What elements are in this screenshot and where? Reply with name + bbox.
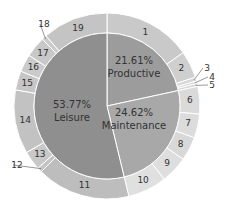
outer-label-17: 17: [37, 48, 48, 58]
outer-label-10: 10: [137, 175, 149, 185]
outer-label-16: 16: [28, 62, 40, 72]
outer-label-7: 7: [185, 118, 191, 128]
outer-label-18: 18: [38, 19, 50, 29]
outer-label-1: 1: [142, 27, 148, 37]
outer-label-12: 12: [11, 160, 22, 170]
inner-percent-productive: 21.61%: [115, 55, 153, 66]
leader-line-4: [195, 77, 208, 83]
outer-label-8: 8: [178, 139, 184, 149]
outer-label-9: 9: [164, 158, 170, 168]
outer-label-13: 13: [34, 149, 45, 159]
leader-line-3: [194, 68, 203, 80]
inner-label-leisure: Leisure: [54, 112, 90, 123]
outer-label-5: 5: [209, 80, 215, 90]
inner-label-maintenance: Maintenance: [102, 120, 166, 131]
outer-label-2: 2: [178, 63, 184, 73]
outer-label-11: 11: [79, 180, 90, 190]
outer-label-6: 6: [187, 95, 193, 105]
inner-label-productive: Productive: [108, 68, 161, 79]
outer-label-14: 14: [20, 115, 32, 125]
outer-label-19: 19: [72, 23, 84, 33]
outer-label-15: 15: [21, 78, 32, 88]
nested-donut-chart: 21.61%Productive24.62%Maintenance53.77%L…: [0, 0, 227, 204]
inner-percent-maintenance: 24.62%: [115, 107, 153, 118]
inner-percent-leisure: 53.77%: [53, 99, 91, 110]
